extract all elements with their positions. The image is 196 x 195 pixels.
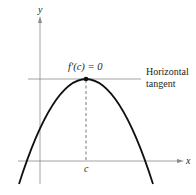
x-axis-label: x [185, 155, 191, 166]
x-axis-arrow-icon [177, 159, 184, 163]
y-axis-arrow-icon [38, 16, 42, 23]
tangent-label-line2: tangent [146, 78, 176, 89]
vertex-point [84, 77, 89, 82]
graph: y x f′(c) = 0 Horizontal tangent c [0, 0, 196, 195]
y-axis-label: y [37, 4, 43, 15]
derivative-annotation: f′(c) = 0 [68, 61, 103, 73]
tick-label-c: c [84, 163, 89, 174]
tangent-label-line1: Horizontal [146, 66, 189, 77]
diagram-canvas: y x f′(c) = 0 Horizontal tangent c [0, 0, 196, 195]
